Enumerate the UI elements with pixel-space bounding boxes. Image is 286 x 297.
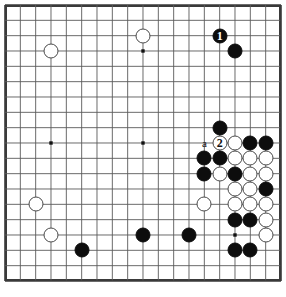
stone-black: [135, 227, 150, 242]
stone-white: [28, 197, 43, 212]
stone-white: [227, 151, 242, 166]
stone-white: [258, 197, 273, 212]
stone-white: [258, 227, 273, 242]
stone-black: [258, 181, 273, 196]
stone-white: [197, 197, 212, 212]
stone-black: [227, 166, 242, 181]
stone-white: [258, 166, 273, 181]
stone-black: [227, 243, 242, 258]
stone-white: [227, 181, 242, 196]
move-stone-black-1: 1: [212, 28, 227, 43]
stone-white: [43, 227, 58, 242]
stone-black: [227, 212, 242, 227]
stone-black: [243, 212, 258, 227]
stone-black: [212, 151, 227, 166]
stone-layer: a12: [0, 0, 286, 297]
stone-white: [43, 43, 58, 58]
stone-white: [212, 166, 227, 181]
stone-white: [243, 151, 258, 166]
point-label-a: a: [202, 137, 207, 148]
stone-move-number: 1: [217, 30, 223, 42]
stone-white: [135, 28, 150, 43]
stone-black: [74, 243, 89, 258]
stone-black: [197, 151, 212, 166]
stone-black: [258, 135, 273, 150]
stone-white: [243, 181, 258, 196]
stone-white: [258, 151, 273, 166]
stone-black: [197, 166, 212, 181]
stone-black: [243, 135, 258, 150]
stone-move-number: 2: [217, 137, 223, 149]
go-board-diagram: a12: [0, 0, 286, 297]
stone-white: [243, 197, 258, 212]
stone-white: [227, 135, 242, 150]
stone-white: [227, 197, 242, 212]
stone-white: [258, 212, 273, 227]
stone-black: [181, 227, 196, 242]
stone-black: [227, 43, 242, 58]
stone-black: [243, 243, 258, 258]
stone-black: [212, 120, 227, 135]
stone-white: [243, 166, 258, 181]
move-stone-white-2: 2: [212, 135, 227, 150]
